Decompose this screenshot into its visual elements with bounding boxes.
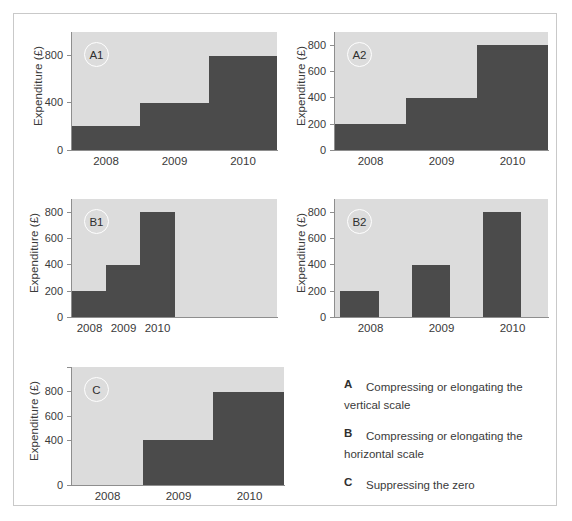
legend-label-b: Compressing or elongating the horizontal… [344,430,523,460]
bar-2010 [477,45,548,150]
legend-item-c: C Suppressing the zero [344,475,559,493]
x-tick-label-2009: 2009 [406,155,477,167]
bar-2009 [412,265,450,317]
y-tick-0 [330,150,334,151]
bar-2010 [483,212,521,317]
y-tick-label-800: 800 [27,207,63,218]
y-tick-0 [67,485,71,486]
y-axis-line-b2 [334,199,335,318]
y-tick-200 [330,291,334,292]
y-tick-400 [67,264,71,265]
y-tick-400 [330,264,334,265]
legend-label-a: Compressing or elongating the vertical s… [344,381,523,411]
bar-2008 [72,291,106,317]
plot-area-b2: B2 [335,199,548,317]
y-axis-line-b1 [71,199,72,318]
y-tick-label-0: 0 [27,312,63,323]
bar-2009 [106,265,140,317]
y-tick-label-0: 0 [290,145,326,156]
y-tick-600 [330,238,334,239]
panel-badge-a1: A1 [84,42,109,67]
y-tick-label-200: 200 [27,286,63,297]
y-tick-400 [330,97,334,98]
x-tick-label-2010: 2010 [214,490,285,502]
panel-badge-b1: B1 [84,209,109,234]
x-tick-label-2008: 2008 [72,155,140,167]
y-tick-label-400: 400 [290,92,326,103]
y-tick-label-0: 0 [27,480,63,491]
legend: A Compressing or elongating the vertical… [344,377,559,506]
y-axis-title: Expenditure (£) [31,27,45,145]
chart-panel-c: Expenditure (£) C 0 400 600 800 2008 200… [19,354,294,504]
x-tick-label-2010: 2010 [209,155,277,167]
legend-key-b: B [344,426,358,441]
x-tick-label-2010: 2010 [477,155,548,167]
panel-badge-a2: A2 [347,42,372,67]
y-tick-top [67,367,71,368]
x-tick-label-2008: 2008 [335,155,406,167]
x-tick-label-2010: 2010 [477,322,548,334]
plot-area-a1: A1 [72,32,277,150]
y-tick-label-400: 400 [27,259,63,270]
y-tick-label-600: 600 [27,411,63,422]
y-axis-line-a1 [71,32,72,151]
plot-area-a2: A2 [335,32,548,150]
y-tick-label-800: 800 [290,207,326,218]
y-tick-400 [67,102,71,103]
x-axis-line-c [71,485,285,486]
y-tick-label-0: 0 [290,312,326,323]
x-tick-label-2010: 2010 [140,322,175,334]
x-tick-label-2009: 2009 [406,322,477,334]
x-tick-label-2008: 2008 [72,322,107,334]
y-tick-200 [330,124,334,125]
y-tick-label-600: 600 [290,66,326,77]
y-tick-400 [67,440,71,441]
bar-2008 [335,124,406,150]
y-axis-line-a2 [334,32,335,151]
x-tick-label-2009: 2009 [106,322,141,334]
x-axis-line-b1 [71,317,278,318]
legend-item-a: A Compressing or elongating the vertical… [344,377,559,413]
bar-2010 [209,56,277,150]
bar-2010 [213,392,284,485]
y-tick-0 [67,150,71,151]
bar-2008 [340,291,378,317]
y-tick-label-400: 400 [27,435,63,446]
panel-badge-b2: B2 [347,209,372,234]
x-axis-line-a1 [71,150,278,151]
y-tick-label-600: 600 [27,233,63,244]
plot-area-b1: B1 [72,199,277,317]
y-tick-label-400: 400 [27,97,63,108]
y-tick-0 [67,317,71,318]
x-tick-label-2009: 2009 [140,155,209,167]
y-tick-label-600: 600 [290,233,326,244]
y-tick-800 [330,212,334,213]
legend-key-c: C [344,475,358,490]
x-axis-line-a2 [334,150,549,151]
legend-key-a: A [344,377,358,392]
bar-2008 [72,126,140,150]
plot-area-c: C [72,367,284,485]
y-tick-label-200: 200 [290,119,326,130]
y-tick-800 [67,391,71,392]
y-tick-label-800: 800 [27,386,63,397]
y-tick-label-400: 400 [290,259,326,270]
y-tick-600 [67,238,71,239]
y-tick-800 [67,55,71,56]
y-tick-label-0: 0 [27,145,63,156]
y-tick-600 [330,71,334,72]
x-tick-label-2009: 2009 [143,490,214,502]
panel-badge-c: C [84,377,109,402]
chart-panel-b2: Expenditure (£) B2 0 200 400 600 800 200… [286,186,554,351]
bar-2009 [143,440,214,485]
x-axis-line-b2 [334,317,549,318]
figure-frame: Expenditure (£) A1 0 400 800 2008 2009 2… [13,13,557,506]
bar-2010 [140,212,174,317]
y-tick-600 [67,416,71,417]
chart-panel-b1: Expenditure (£) B1 0 200 400 600 800 200… [19,186,284,351]
y-tick-label-800: 800 [290,40,326,51]
y-tick-800 [330,45,334,46]
y-tick-label-200: 200 [290,286,326,297]
y-tick-0 [330,317,334,318]
y-tick-label-800: 800 [27,50,63,61]
